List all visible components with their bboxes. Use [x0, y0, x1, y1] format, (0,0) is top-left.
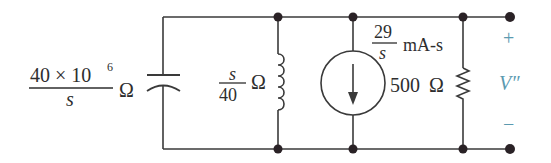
node-bottom-resistor — [459, 145, 468, 154]
capacitor-denominator: s — [66, 88, 74, 110]
source-unit: mA-s — [403, 35, 443, 55]
node-top-inductor — [274, 13, 283, 22]
output-voltage-name: V″ — [499, 72, 520, 94]
polarity-plus: + — [503, 27, 514, 49]
inductor-symbol — [278, 54, 284, 110]
capacitor-unit: Ω — [119, 79, 134, 101]
source-numerator: 29 — [374, 22, 392, 42]
circuit-diagram: 40 × 10 6 s Ω s 40 Ω 29 s mA-s 500 Ω + V… — [0, 0, 551, 163]
terminal-bottom — [505, 144, 515, 154]
output-voltage-label: + V″ − — [499, 27, 520, 135]
resistor-symbol — [457, 68, 469, 102]
node-top-source — [349, 13, 358, 22]
capacitor-label: 40 × 10 6 s Ω — [29, 60, 134, 110]
node-top-resistor — [459, 13, 468, 22]
inductor-label: s 40 Ω — [219, 64, 266, 105]
capacitor-numerator: 40 × 10 — [30, 64, 91, 86]
source-denominator: s — [379, 43, 386, 63]
capacitor-exponent: 6 — [107, 60, 113, 74]
polarity-minus: − — [503, 113, 514, 135]
terminal-top — [505, 12, 515, 22]
current-source-symbol — [321, 51, 385, 115]
inductor-denominator: 40 — [219, 85, 237, 105]
node-bottom-source — [349, 145, 358, 154]
resistor-unit: Ω — [429, 74, 444, 96]
arrow-down-icon — [348, 92, 358, 105]
inductor-unit: Ω — [251, 71, 266, 93]
inductor-numerator: s — [229, 64, 236, 84]
resistor-label: 500 Ω — [390, 74, 444, 96]
current-source-label: 29 s mA-s — [372, 22, 443, 63]
wires — [163, 17, 510, 149]
resistor-value: 500 — [390, 74, 420, 96]
node-bottom-inductor — [274, 145, 283, 154]
